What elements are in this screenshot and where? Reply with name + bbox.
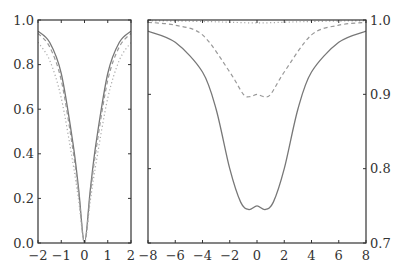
x-tick-label: −4: [193, 248, 212, 263]
x-tick-label: 0: [80, 248, 88, 263]
y-tick-label: 0.8: [370, 161, 391, 176]
chart-figure: −2−10120.00.20.40.60.81.0 −8−6−4−2024680…: [0, 0, 399, 274]
x-tick-label: −6: [166, 248, 185, 263]
right-panel: −8−6−4−2024680.70.80.91.0: [138, 13, 390, 264]
y-tick-label: 0.7: [370, 236, 391, 251]
y-tick-label: 0.6: [13, 102, 34, 117]
plot-frame: [38, 20, 131, 243]
y-tick-label: 1.0: [370, 13, 391, 28]
y-tick-label: 0.0: [13, 236, 34, 251]
y-tick-label: 1.0: [13, 13, 34, 28]
x-tick-label: −2: [220, 248, 239, 263]
x-tick-label: 2: [280, 248, 288, 263]
series-dotted-line: [38, 42, 131, 243]
x-tick-label: −1: [52, 248, 71, 263]
plot-frame: [148, 20, 366, 243]
y-tick-label: 0.9: [370, 87, 391, 102]
series-dashed-line: [148, 22, 366, 97]
y-tick-label: 0.2: [13, 191, 34, 206]
x-tick-label: 1: [104, 248, 112, 263]
series-solid-line: [38, 31, 131, 243]
x-tick-label: 2: [127, 248, 135, 263]
series-solid-line: [148, 31, 366, 209]
x-tick-label: 6: [335, 248, 343, 263]
x-tick-label: −8: [138, 248, 157, 263]
left-panel: −2−10120.00.20.40.60.81.0: [13, 13, 135, 264]
x-tick-label: 4: [307, 248, 315, 263]
y-tick-label: 0.4: [13, 146, 34, 161]
y-tick-label: 0.8: [13, 57, 34, 72]
x-tick-label: 8: [362, 248, 370, 263]
x-tick-label: 0: [253, 248, 261, 263]
